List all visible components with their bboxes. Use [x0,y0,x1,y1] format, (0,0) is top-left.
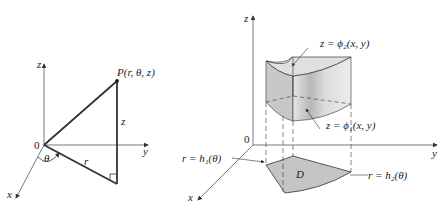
right-figure: z y x 0 z = ϕ₂(x, y) z = ϕ₁(x, y) D r = … [182,12,437,203]
cylindrical-coordinates-diagram: z y x 0 P(r, θ, z) z r θ [0,0,447,213]
top-surface-label: z = ϕ₂(x, y) [319,37,370,50]
radius-segment [44,145,117,184]
point-p [115,79,119,83]
x-axis-label: x [6,188,12,200]
origin-label-right: 0 [244,133,250,145]
theta-label: θ [44,152,50,164]
height-label: z [120,115,126,127]
region-label: D [295,168,304,180]
y-axis-label-right: y [431,147,437,159]
left-figure: z y x 0 P(r, θ, z) z r θ [6,58,155,200]
region-d [266,156,351,193]
radius-label: r [84,155,89,167]
y-axis-label: y [142,145,148,157]
op-segment [44,81,117,145]
inner-boundary-label: r = h₁(θ) [182,152,222,165]
origin-label: 0 [34,139,40,151]
z-axis-label-right: z [243,12,249,24]
outer-boundary-label: r = h₂(θ) [368,169,408,182]
right-angle-mark [110,174,117,180]
bottom-surface-label: z = ϕ₁(x, y) [325,119,376,132]
x-axis [16,145,44,198]
z-axis-label: z [36,58,42,70]
x-axis-label-right: x [187,191,193,203]
point-label: P(r, θ, z) [116,66,155,79]
